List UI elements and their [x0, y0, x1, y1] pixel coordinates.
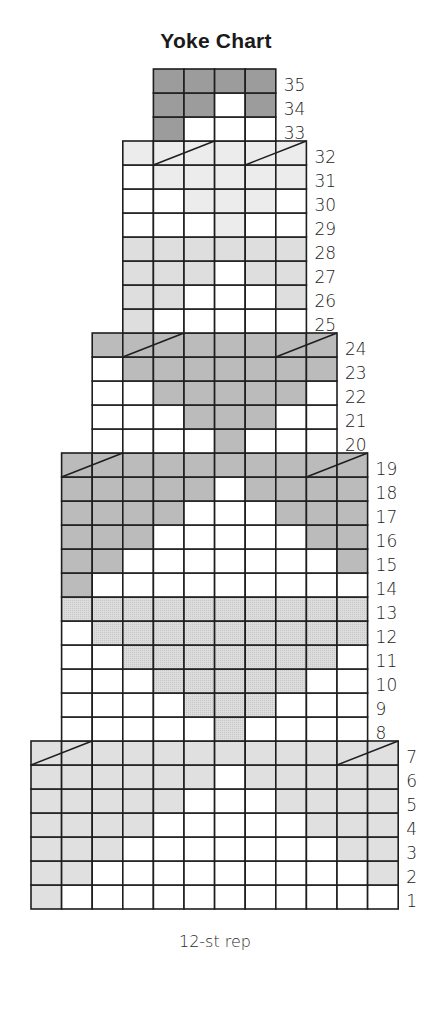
cell-r12-c6-dotted-light-gray: [215, 621, 246, 645]
row-label-8: 8: [376, 723, 387, 743]
cell-r23-c4-medium-gray: [184, 357, 215, 381]
cell-r3-c11-light-gray: [337, 837, 368, 861]
cell-r5-c8-white: [245, 789, 276, 813]
row-label-7: 7: [406, 747, 417, 767]
cell-r23-c5-medium-gray: [215, 357, 246, 381]
cell-r16-c3-medium-gray: [123, 525, 154, 549]
cell-r27-c6-soft-gray: [276, 261, 307, 285]
cell-r7-c8-light-gray: [245, 741, 276, 765]
cell-r19-c8-medium-gray: [276, 453, 307, 477]
cell-r5-c3-light-gray: [92, 789, 123, 813]
cell-r6-c4-light-gray: [123, 765, 154, 789]
cell-r15-c5-white: [184, 549, 215, 573]
cell-r32-c1-pale-gray: [123, 141, 154, 165]
cell-r17-c8-medium-gray: [276, 501, 307, 525]
cell-r25-c5-white: [245, 309, 276, 333]
cell-r10-c10-white: [337, 669, 368, 693]
chart-row-26: [123, 285, 307, 309]
cell-r20-c6-white: [245, 429, 276, 453]
cell-r32-c4-pale-gray: [215, 141, 246, 165]
cell-r29-c2-white: [153, 213, 184, 237]
cell-r18-c3-medium-gray: [123, 477, 154, 501]
cell-r20-c7-white: [276, 429, 307, 453]
chart-row-20: [92, 429, 337, 453]
cell-r7-c4-light-gray: [123, 741, 154, 765]
cell-r34-c2-dark-gray: [184, 93, 215, 117]
cell-r21-c7-white: [276, 405, 307, 429]
cell-r11-c1-white: [62, 645, 93, 669]
cell-r8-c1-white: [62, 717, 93, 741]
chart-row-11: [62, 645, 368, 669]
cell-r4-c8-white: [245, 813, 276, 837]
row-label-10: 10: [376, 675, 398, 695]
row-label-20: 20: [345, 435, 367, 455]
cell-r28-c5-soft-gray: [245, 237, 276, 261]
cell-r17-c9-medium-gray: [306, 501, 337, 525]
cell-r17-c1-medium-gray: [62, 501, 93, 525]
cell-r27-c3-soft-gray: [184, 261, 215, 285]
cell-r29-c5-white: [245, 213, 276, 237]
cell-r12-c2-dotted-light-gray: [92, 621, 123, 645]
cell-r28-c4-soft-gray: [215, 237, 246, 261]
cell-r11-c2-white: [92, 645, 123, 669]
cell-r1-c4-white: [123, 885, 154, 909]
cell-r21-c5-medium-gray: [215, 405, 246, 429]
cell-r23-c3-medium-gray: [153, 357, 184, 381]
cell-r13-c9-dotted-light-gray: [306, 597, 337, 621]
cell-r10-c1-white: [62, 669, 93, 693]
cell-r18-c2-medium-gray: [92, 477, 123, 501]
chart-row-9: [62, 693, 368, 717]
chart-row-6: [31, 765, 398, 789]
row-label-23: 23: [345, 363, 367, 383]
cell-r18-c6-white: [215, 477, 246, 501]
cell-r11-c5-dotted-light-gray: [184, 645, 215, 669]
cell-r2-c12-light-gray: [368, 861, 399, 885]
row-label-30: 30: [314, 195, 336, 215]
cell-r20-c2-white: [123, 429, 154, 453]
chart-row-7: [31, 741, 398, 765]
cell-r27-c1-soft-gray: [123, 261, 154, 285]
cell-r11-c10-white: [337, 645, 368, 669]
cell-r13-c1-dotted-light-gray: [62, 597, 93, 621]
cell-r6-c6-light-gray: [184, 765, 215, 789]
cell-r19-c6-medium-gray: [215, 453, 246, 477]
cell-r27-c5-soft-gray: [245, 261, 276, 285]
chart-row-12: [62, 621, 368, 645]
chart-row-2: [31, 861, 398, 885]
cell-r11-c3-dotted-light-gray: [123, 645, 154, 669]
cell-r15-c3-white: [123, 549, 154, 573]
cell-r11-c7-dotted-light-gray: [245, 645, 276, 669]
cell-r8-c4-white: [153, 717, 184, 741]
cell-r7-c10-light-gray: [306, 741, 337, 765]
cell-r30-c1-white: [123, 189, 154, 213]
chart-row-25: [123, 309, 307, 333]
cell-r28-c3-soft-gray: [184, 237, 215, 261]
cell-r29-c1-white: [123, 213, 154, 237]
cell-r8-c3-white: [123, 717, 154, 741]
chart-row-23: [92, 357, 337, 381]
cell-r30-c4-pale-gray: [215, 189, 246, 213]
cell-r14-c7-white: [245, 573, 276, 597]
cell-r25-c3-white: [184, 309, 215, 333]
cell-r7-c9-light-gray: [276, 741, 307, 765]
cell-r35-c3-dark-gray: [215, 69, 246, 93]
cell-r30-c5-pale-gray: [245, 189, 276, 213]
cell-r15-c1-medium-gray: [62, 549, 93, 573]
cell-r6-c1-light-gray: [31, 765, 62, 789]
cell-r16-c2-medium-gray: [92, 525, 123, 549]
cell-r10-c4-dotted-light-gray: [153, 669, 184, 693]
cell-r2-c1-light-gray: [31, 861, 62, 885]
chart-row-18: [62, 477, 368, 501]
cell-r2-c7-white: [215, 861, 246, 885]
cell-r5-c9-light-gray: [276, 789, 307, 813]
row-label-26: 26: [314, 291, 336, 311]
cell-r1-c12-white: [368, 885, 399, 909]
cell-r22-c3-medium-gray: [153, 381, 184, 405]
cell-r18-c1-medium-gray: [62, 477, 93, 501]
cell-r14-c8-white: [276, 573, 307, 597]
cell-r30-c2-white: [153, 189, 184, 213]
cell-r22-c6-medium-gray: [245, 381, 276, 405]
chart-row-32: [123, 141, 307, 165]
row-label-3: 3: [406, 843, 417, 863]
cell-r9-c8-white: [276, 693, 307, 717]
